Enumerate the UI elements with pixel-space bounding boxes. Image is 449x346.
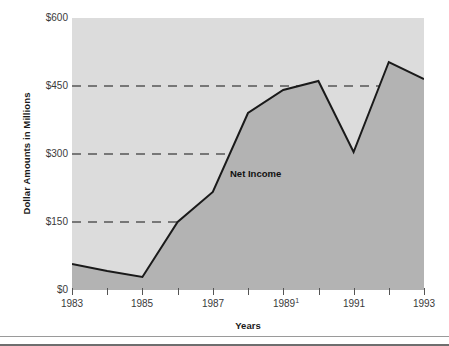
x-tick-label-1989-text: 1989 [273, 298, 295, 309]
x-tick-label-1983: 1983 [42, 298, 102, 309]
x-tickmark-1984 [107, 288, 108, 295]
x-tickmark-1992 [389, 288, 390, 295]
x-tickmark-1989 [283, 288, 284, 295]
x-tickmark-1990 [319, 288, 320, 295]
x-tickmark-1991 [354, 288, 355, 295]
chart-figure: Dollar Amounts in Millions $600 $450 $30… [0, 0, 449, 346]
x-tickmark-1988 [248, 288, 249, 295]
x-tickmark-1985 [142, 288, 143, 295]
x-tickmark-1993 [424, 288, 425, 295]
x-tick-label-1989: 19891 [256, 298, 316, 309]
x-tick-label-1985: 1985 [112, 298, 172, 309]
x-tick-label-1987: 1987 [183, 298, 243, 309]
x-tick-label-1991: 1991 [324, 298, 384, 309]
x-tick-label-1993: 1993 [394, 298, 449, 309]
x-tickmark-1983 [72, 288, 73, 295]
x-tick-footnote-marker: 1 [295, 297, 299, 304]
x-axis-tick-marks [0, 0, 449, 346]
x-axis-title: Years [72, 320, 424, 331]
x-tickmark-1987 [213, 288, 214, 295]
footer-rule-thin [0, 336, 449, 337]
x-tickmark-1986 [178, 288, 179, 295]
